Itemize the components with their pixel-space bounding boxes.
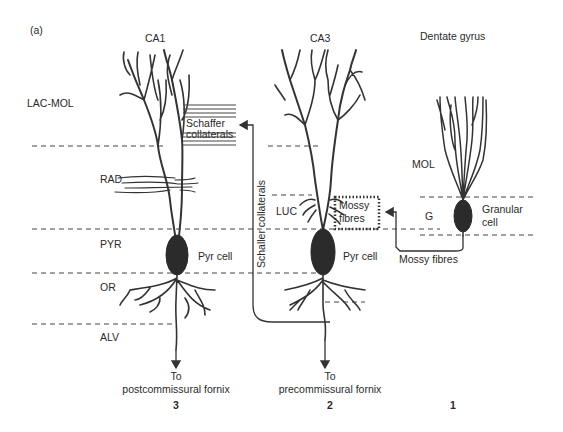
ca3-output-label-line2: precommissural fornix bbox=[279, 383, 382, 395]
layer-label-mol: MOL bbox=[412, 158, 435, 170]
layer-label-or: OR bbox=[100, 281, 116, 293]
step-number-3: 3 bbox=[173, 399, 179, 411]
layer-label-alv: ALV bbox=[100, 331, 119, 343]
ca1-output-label-line1: To bbox=[170, 370, 181, 382]
ca1-output-label-line2: postcommissural fornix bbox=[122, 383, 230, 395]
step-number-2: 2 bbox=[327, 399, 333, 411]
layer-label-lac-mol: LAC-MOL bbox=[27, 97, 74, 109]
granular-cell-neuron bbox=[437, 97, 486, 236]
figure-canvas: (a) CA1 CA3 Dentate gyrus LAC-MOL RAD PY… bbox=[0, 0, 563, 432]
step-number-1: 1 bbox=[450, 399, 456, 411]
mossy-fibres-box-label-line2: fibres bbox=[339, 212, 365, 224]
mossy-fibres-box-label-line1: Mossy bbox=[339, 199, 370, 211]
granular-cell-label-line1: Granular bbox=[482, 203, 523, 215]
ca1-title: CA1 bbox=[145, 32, 166, 44]
panel-label: (a) bbox=[30, 24, 43, 36]
schaffer-collaterals-label-line2: collaterals bbox=[186, 128, 233, 140]
layer-label-luc: LUC bbox=[276, 205, 297, 217]
ca3-output-label-line1: To bbox=[324, 370, 335, 382]
ca3-title: CA3 bbox=[310, 32, 331, 44]
dentate-gyrus-title: Dentate gyrus bbox=[420, 30, 485, 42]
ca3-pyr-cell-label: Pyr cell bbox=[343, 250, 377, 262]
schaffer-collaterals-vertical-label: Schaller collaterals bbox=[255, 180, 267, 268]
schaffer-collateral-pathway bbox=[240, 125, 253, 275]
ca1-pyramidal-neuron bbox=[115, 50, 215, 368]
schaffer-collateral-origin bbox=[253, 275, 330, 322]
layer-label-g: G bbox=[425, 210, 433, 222]
hippocampus-circuit-figure: (a) CA1 CA3 Dentate gyrus LAC-MOL RAD PY… bbox=[0, 0, 563, 432]
layer-label-pyr: PYR bbox=[100, 238, 122, 250]
layer-label-rad: RAD bbox=[100, 173, 123, 185]
ca1-pyr-cell-label: Pyr cell bbox=[198, 250, 232, 262]
granular-cell-label-line2: cell bbox=[482, 216, 498, 228]
mossy-fibres-label: Mossy fibres bbox=[399, 253, 458, 265]
